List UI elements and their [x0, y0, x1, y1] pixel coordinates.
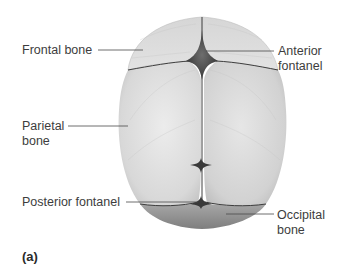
skull — [119, 17, 287, 229]
parietal-bone-label: Parietal bone — [22, 119, 64, 149]
panel-label: (a) — [22, 249, 38, 264]
frontal-bone-text: Frontal bone — [22, 43, 92, 57]
occipital-bone-text-2: bone — [277, 223, 325, 238]
occipital-bone-text-1: Occipital — [277, 208, 325, 223]
posterior-fontanel-label: Posterior fontanel — [22, 195, 120, 210]
posterior-fontanel-text: Posterior fontanel — [22, 195, 120, 209]
right-parietal-bone-shape — [204, 62, 286, 206]
left-parietal-bone-shape — [119, 62, 201, 206]
occipital-bone-shape — [140, 203, 266, 229]
anterior-fontanel-label: Anterior fontanel — [278, 44, 322, 74]
frontal-bone-label: Frontal bone — [22, 43, 92, 58]
anterior-fontanel-text-2: fontanel — [278, 59, 322, 74]
occipital-bone-label: Occipital bone — [277, 208, 325, 238]
parietal-bone-text-1: Parietal — [22, 119, 64, 134]
parietal-bone-text-2: bone — [22, 134, 64, 149]
anterior-fontanel-text-1: Anterior — [278, 44, 322, 59]
